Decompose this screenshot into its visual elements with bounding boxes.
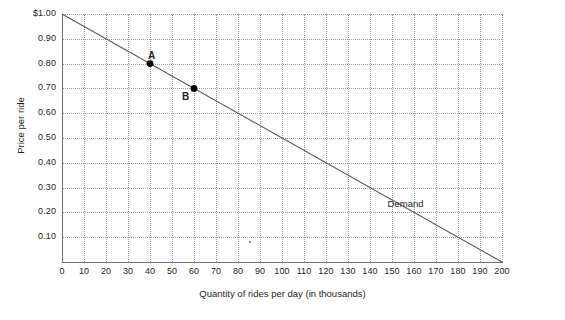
y-axis-line [62, 14, 63, 263]
y-axis-tick-label: 0.10 [8, 231, 56, 241]
demand-curve-chart: 0102030405060708090100110120130140150160… [0, 0, 565, 320]
gridline-horizontal [62, 113, 502, 115]
y-axis-title: Price per ride [15, 66, 26, 186]
gridline-horizontal [62, 188, 502, 190]
x-axis-title: Quantity of rides per day (in thousands) [0, 288, 565, 299]
gridline-horizontal [62, 237, 502, 239]
gridline-horizontal [62, 14, 502, 16]
gridline-vertical [502, 14, 504, 262]
gridline-horizontal [62, 64, 502, 66]
y-axis-tick-label: $1.00 [8, 8, 56, 18]
gridline-horizontal [62, 138, 502, 140]
y-axis-tick-label: 0.90 [8, 33, 56, 43]
point-label-b: B [182, 91, 189, 102]
gridline-horizontal [62, 39, 502, 41]
stray-speck [249, 241, 251, 243]
x-axis-line [62, 262, 503, 263]
point-label-a: A [148, 50, 155, 61]
gridline-horizontal [62, 212, 502, 214]
y-axis-tick-label: 0.20 [8, 206, 56, 216]
gridline-horizontal [62, 88, 502, 90]
gridline-horizontal [62, 163, 502, 165]
demand-series-label: Demand [388, 198, 424, 209]
x-axis-tick-label: 200 [487, 266, 517, 276]
